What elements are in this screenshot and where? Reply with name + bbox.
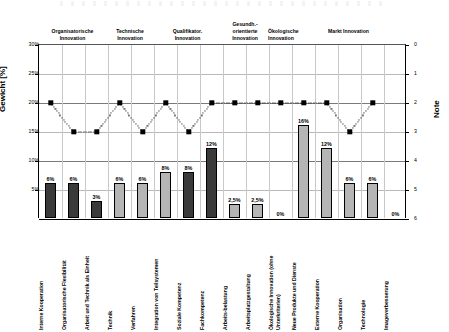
line-dot [176,117,177,118]
line-dot [203,113,204,114]
y-axis-tick-label-right: 6 [414,215,417,221]
line-dot [362,115,363,116]
line-dot [127,113,128,114]
line-dot [298,102,299,103]
line-dot [311,102,312,103]
line-dot [185,127,186,128]
line-dot [111,113,112,114]
note-marker [71,129,76,134]
note-marker [117,100,122,105]
line-dot [114,109,115,110]
line-dot [288,102,289,103]
line-dot [158,111,159,112]
bar-value-label: 8% [162,165,170,171]
group-header: Markt Innovation [291,28,406,35]
bar-value-label: 12% [321,141,332,147]
line-dot [191,127,192,128]
y-axis-tick-right [405,103,409,104]
gridline-vertical [269,45,270,218]
note-marker [140,129,145,134]
line-dot [193,125,194,126]
y-axis-tick-label-left: 5% [0,186,39,192]
gridline-vertical [131,45,132,218]
line-dot [183,125,184,126]
gridline-vertical [292,45,293,218]
line-dot [295,102,296,103]
gridline-vertical [62,45,63,218]
bar [45,183,57,218]
line-dot [70,127,71,128]
line-dot [152,119,153,120]
y-axis-tick-label-right: 3 [414,128,417,134]
line-dot [369,107,370,108]
y-axis-tick-right [405,190,409,191]
line-dot [129,115,130,116]
bar-value-label: 0% [277,211,285,217]
line-dot [316,102,317,103]
line-dot [99,127,100,128]
line-dot [367,109,368,110]
category-label: Technik [107,220,130,330]
category-label: Soziale Kompetenz [176,220,199,330]
group-header: Qualifikator. Innovation [153,28,222,42]
gridline-vertical [384,45,385,218]
y-axis-tick-label-left: 30% [0,41,39,47]
note-marker [347,129,352,134]
line-dot [195,123,196,124]
gridline-vertical [223,45,224,218]
line-dot [224,102,225,103]
line-dot [116,107,117,108]
bar [91,201,103,218]
line-dot [162,107,163,108]
group-header: Organisatorische Innovation [38,28,107,42]
line-dot [247,102,248,103]
bar [183,172,195,218]
line-dot [242,102,243,103]
plot-area: 6%6%3%6%6%8%8%12%2,5%2,5%0%16%12%6%6%0% [38,44,406,218]
line-dot [66,123,67,124]
y-axis-tick-label-left: 20% [0,99,39,105]
line-dot [196,121,197,122]
line-dot [83,131,84,132]
line-dot [308,102,309,103]
bar [137,183,149,218]
line-dot [318,102,319,103]
line-dot [91,131,92,132]
line-dot [149,123,150,124]
bar-value-label: 16% [298,118,309,124]
y-axis-tick-label-left: 15% [0,128,39,134]
line-dot [124,109,125,110]
line-dot [342,123,343,124]
category-label: Ökologische Innovation (ohne Unterkriter… [268,220,291,330]
gridline-horizontal [39,161,405,162]
line-dot [78,131,79,132]
header-artifact [60,1,390,6]
line-dot [180,121,181,122]
category-label: Arbeitsplatzgestaltung [245,220,268,330]
line-dot [55,109,56,110]
y-axis-tick-right [405,45,409,46]
bar [252,204,264,219]
note-marker [278,100,283,105]
gridline-vertical [361,45,362,218]
line-dot [219,102,220,103]
note-marker [186,129,191,134]
line-dot [352,127,353,128]
bar-value-label: 6% [116,176,124,182]
category-label: Interne Kooperation [38,220,61,330]
line-dot [208,107,209,108]
bar-value-label: 2,5% [251,197,263,203]
line-dot [204,111,205,112]
line-dot [172,111,173,112]
line-dot [356,123,357,124]
line-dot [249,102,250,103]
bar [298,125,310,218]
line-dot [173,113,174,114]
line-dot [122,107,123,108]
bar [114,183,126,218]
y-axis-title-right: Note [432,100,441,118]
note-marker [324,100,329,105]
line-dot [160,109,161,110]
bar [160,172,172,218]
line-dot [150,121,151,122]
